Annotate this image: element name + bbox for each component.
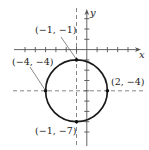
leader-line-top — [61, 37, 76, 58]
point-top — [75, 58, 79, 62]
y-axis — [84, 14, 89, 146]
point-right — [106, 89, 110, 93]
x-axis — [14, 47, 138, 52]
y-axis-label: y — [89, 7, 96, 18]
point-left — [44, 89, 48, 93]
x-axis-label: x — [139, 49, 145, 60]
leader-line-left — [30, 67, 45, 90]
label-left-point: (−4, −4) — [12, 56, 53, 67]
label-right-point: (2, −4) — [111, 76, 145, 87]
point-bottom — [75, 120, 79, 124]
circle-graph: x y (−1, −1) (−4, −4) (2, −4) (−1, −7) — [0, 0, 149, 150]
label-top-point: (−1, −1) — [35, 24, 76, 35]
label-bottom-point: (−1, −7) — [35, 125, 76, 136]
